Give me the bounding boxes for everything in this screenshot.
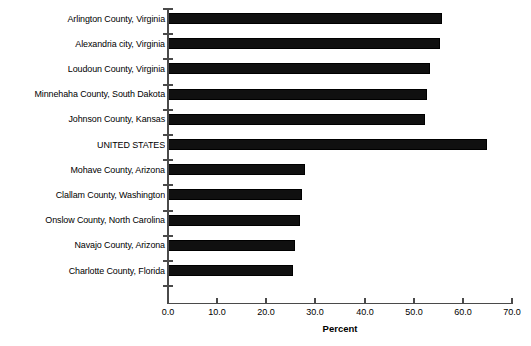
bar — [168, 215, 300, 226]
category-label: Onslow County, North Carolina — [10, 214, 165, 225]
category-label: Clallam County, Washington — [10, 189, 165, 200]
bar — [168, 240, 295, 251]
y-axis-tick — [163, 58, 173, 60]
x-axis-tick-label: 0.0 — [147, 306, 189, 318]
category-label: Arlington County, Virginia — [10, 13, 165, 24]
x-axis-tick — [511, 298, 513, 304]
x-axis-tick-label: 70.0 — [491, 306, 531, 318]
x-axis-tick — [216, 298, 218, 304]
category-label: Charlotte County, Florida — [10, 265, 165, 276]
x-axis-tick-label: 60.0 — [442, 306, 484, 318]
bar — [168, 189, 302, 200]
bar — [168, 63, 430, 74]
y-axis-tick — [163, 184, 173, 186]
y-axis-tick — [163, 84, 173, 86]
x-axis-tick — [462, 298, 464, 304]
x-axis-tick-label: 50.0 — [393, 306, 435, 318]
x-axis-tick — [167, 298, 169, 304]
x-axis-tick-label: 40.0 — [344, 306, 386, 318]
x-axis-tick — [364, 298, 366, 304]
x-axis-tick-label: 10.0 — [196, 306, 238, 318]
y-axis-tick — [163, 260, 173, 262]
x-axis-title: Percent — [168, 323, 512, 334]
x-axis-tick — [413, 298, 415, 304]
category-label: Navajo County, Arizona — [10, 239, 165, 250]
bar — [168, 114, 425, 125]
bar — [168, 13, 442, 24]
y-axis-tick — [163, 33, 173, 35]
y-axis-tick — [163, 109, 173, 111]
x-axis-tick — [265, 298, 267, 304]
category-label: Johnson County, Kansas — [10, 113, 165, 124]
category-label: Alexandria city, Virginia — [10, 38, 165, 49]
bar-chart: Arlington County, VirginiaAlexandria cit… — [0, 0, 531, 346]
bar — [168, 89, 427, 100]
bar — [168, 164, 305, 175]
category-label: Mohave County, Arizona — [10, 164, 165, 175]
bar — [168, 38, 440, 49]
category-axis-labels: Arlington County, VirginiaAlexandria cit… — [0, 0, 165, 305]
x-axis-tick-label: 30.0 — [295, 306, 337, 318]
y-axis-tick — [163, 285, 173, 287]
x-axis-tick — [314, 298, 316, 304]
y-axis-tick — [163, 235, 173, 237]
x-axis-tick-label: 20.0 — [245, 306, 287, 318]
y-axis-tick — [163, 210, 173, 212]
y-axis-tick — [163, 134, 173, 136]
category-label: Minnehaha County, South Dakota — [10, 88, 165, 99]
y-axis-tick — [163, 159, 173, 161]
category-label: Loudoun County, Virginia — [10, 63, 165, 74]
plot-area — [168, 8, 512, 303]
bar — [168, 265, 293, 276]
category-label: UNITED STATES — [10, 139, 165, 150]
y-axis-tick — [163, 8, 173, 10]
bar — [168, 139, 487, 150]
